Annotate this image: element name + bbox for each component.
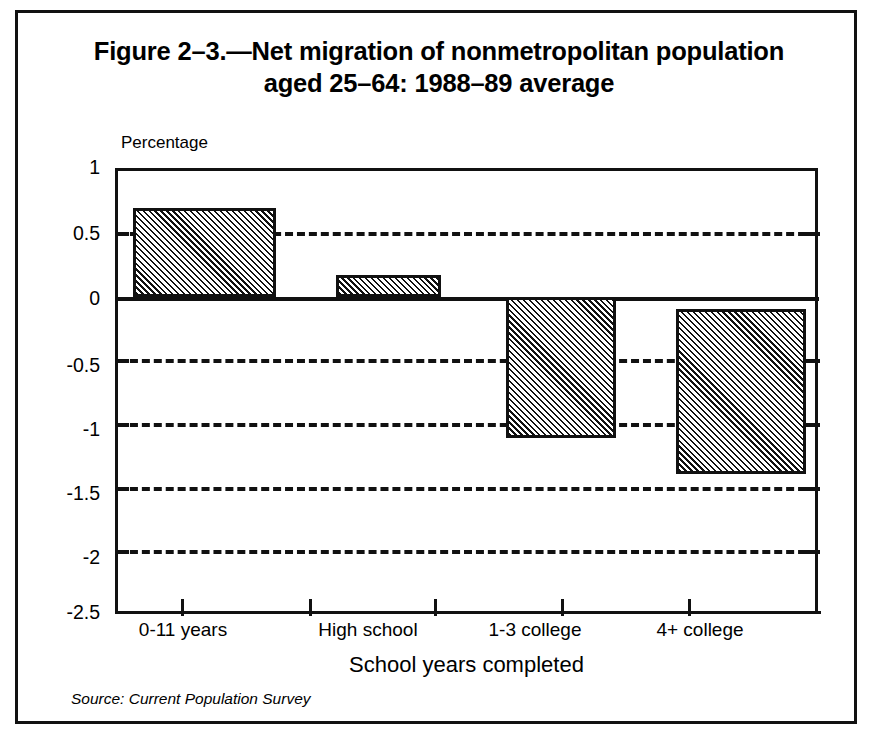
gridline-neg2 — [118, 550, 818, 554]
y-tick-label-0: 0 — [54, 287, 100, 310]
bar-0-11-years — [133, 208, 276, 297]
y-tick-mark-neg2 — [115, 550, 129, 554]
zero-baseline — [117, 297, 819, 301]
y-tick-label-neg2_5: -2.5 — [36, 601, 100, 624]
y-tick-label-neg0_5: -0.5 — [40, 354, 100, 377]
y-tick-mark-right-neg1_5 — [806, 487, 820, 491]
x-axis-line — [115, 611, 821, 614]
y-tick-label-1: 1 — [54, 156, 100, 179]
x-tick-label-4-plus-college: 4+ college — [610, 619, 790, 641]
bar-high-school — [336, 275, 441, 297]
source-note: Source: Current Population Survey — [71, 690, 311, 708]
y-tick-label-neg1_5: -1.5 — [36, 482, 100, 505]
y-tick-mark-right-neg2 — [806, 550, 820, 554]
y-tick-label-0_5: 0.5 — [54, 222, 100, 245]
bar-1-3-college — [506, 297, 616, 438]
y-tick-mark-neg1 — [115, 423, 129, 427]
y-axis-unit-label: Percentage — [121, 133, 208, 153]
y-tick-label-neg1: -1 — [40, 418, 100, 441]
x-axis-title: School years completed — [115, 652, 818, 678]
gridline-neg1_5 — [118, 487, 818, 491]
y-tick-mark-right-0_5 — [806, 232, 820, 236]
y-tick-mark-right-neg0_5 — [806, 359, 820, 363]
y-tick-mark-neg0_5 — [115, 359, 129, 363]
figure-title-line-1: Figure 2–3.—Net migration of nonmetropol… — [36, 35, 842, 67]
figure-title: Figure 2–3.—Net migration of nonmetropol… — [36, 35, 842, 100]
y-tick-mark-right-neg1 — [806, 423, 820, 427]
x-tick-label-high-school: High school — [278, 619, 458, 641]
figure-title-line-2: aged 25–64: 1988–89 average — [36, 67, 842, 99]
plot-area — [115, 168, 818, 613]
bar-4-plus-college — [676, 309, 806, 474]
figure-frame: Figure 2–3.—Net migration of nonmetropol… — [15, 10, 857, 724]
y-tick-label-neg2: -2 — [40, 546, 100, 569]
x-tick-label-0-11-years: 0-11 years — [93, 619, 273, 641]
y-tick-mark-neg1_5 — [115, 487, 129, 491]
x-tick-label-1-3-college: 1-3 college — [445, 619, 625, 641]
y-tick-mark-0_5 — [115, 232, 129, 236]
